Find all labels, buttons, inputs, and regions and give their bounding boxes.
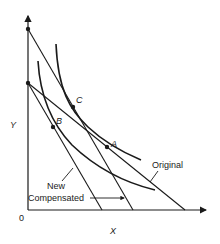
x-axis-label: X bbox=[110, 227, 116, 236]
new-label-pointer bbox=[62, 168, 73, 181]
y-intercept-lower-marker bbox=[26, 81, 30, 85]
original-line-label: Original bbox=[152, 161, 183, 170]
compensated-line-label: Compensated bbox=[28, 194, 84, 203]
point-c-label: C bbox=[76, 96, 83, 105]
point-c-marker bbox=[71, 105, 75, 109]
indifference-diagram bbox=[0, 0, 220, 244]
point-a-marker bbox=[105, 145, 109, 149]
point-a-label: A bbox=[111, 140, 117, 149]
original-label-pointer bbox=[150, 171, 158, 182]
new-line-label: New bbox=[47, 182, 65, 191]
point-b-marker bbox=[51, 125, 55, 129]
y-axis-label: Y bbox=[10, 121, 16, 130]
point-b-label: B bbox=[56, 117, 62, 126]
origin-label: 0 bbox=[19, 214, 24, 223]
y-intercept-upper-marker bbox=[26, 27, 30, 31]
